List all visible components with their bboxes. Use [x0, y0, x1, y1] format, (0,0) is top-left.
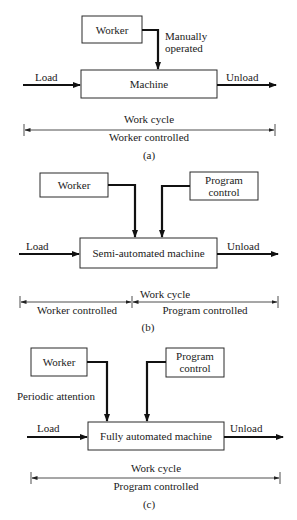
caption-b: (b): [142, 321, 155, 334]
svg-text:Worker: Worker: [96, 24, 129, 36]
machine-box: Fully automated machine: [88, 422, 224, 450]
svg-text:Semi-automated machine: Semi-automated machine: [92, 247, 204, 259]
svg-text:Load: Load: [35, 71, 58, 83]
svg-text:Periodic attention: Periodic attention: [17, 390, 95, 402]
svg-text:Worker: Worker: [43, 356, 76, 368]
worker-box: Worker: [82, 16, 142, 43]
svg-text:operated: operated: [165, 42, 203, 54]
panel-c: Worker Periodic attention Program contro…: [17, 348, 283, 511]
caption-a: (a): [143, 149, 156, 162]
panel-b: Worker Program control Semi-automated ma…: [19, 172, 278, 334]
worker-input-arrow: [108, 185, 135, 237]
svg-text:Work cycle: Work cycle: [131, 462, 181, 474]
program-control-box: Program control: [166, 348, 224, 377]
svg-text:Work cycle: Work cycle: [140, 288, 190, 300]
svg-text:Worker: Worker: [58, 179, 91, 191]
panel-a: Worker Manually operated Machine Load Un…: [23, 16, 276, 162]
svg-text:Program controlled: Program controlled: [113, 480, 199, 492]
program-input-arrow: [147, 362, 166, 421]
svg-text:Load: Load: [26, 240, 49, 252]
worker-box: Worker: [40, 173, 108, 197]
svg-text:Load: Load: [37, 422, 60, 434]
caption-c: (c): [143, 498, 156, 511]
svg-text:Program controlled: Program controlled: [162, 304, 248, 316]
svg-text:Worker controlled: Worker controlled: [109, 131, 190, 143]
svg-text:Machine: Machine: [130, 78, 169, 90]
svg-text:control: control: [208, 186, 239, 198]
machine-box: Machine: [81, 70, 217, 98]
manual-operation-arrow: [142, 30, 158, 69]
svg-text:Unload: Unload: [230, 422, 263, 434]
svg-text:Manually: Manually: [165, 30, 208, 42]
svg-text:Work cycle: Work cycle: [124, 113, 174, 125]
machine-box: Semi-automated machine: [80, 238, 217, 268]
svg-text:Fully automated machine: Fully automated machine: [100, 430, 212, 442]
svg-text:Program: Program: [205, 174, 243, 186]
program-control-box: Program control: [190, 172, 258, 200]
svg-text:Unload: Unload: [227, 240, 260, 252]
svg-text:Worker controlled: Worker controlled: [37, 304, 118, 316]
worker-box: Worker: [31, 348, 87, 376]
svg-text:Unload: Unload: [226, 71, 259, 83]
automation-levels-diagram: Worker Manually operated Machine Load Un…: [0, 0, 297, 520]
svg-text:Program: Program: [176, 350, 214, 362]
svg-text:control: control: [179, 362, 210, 374]
program-input-arrow: [162, 186, 190, 237]
